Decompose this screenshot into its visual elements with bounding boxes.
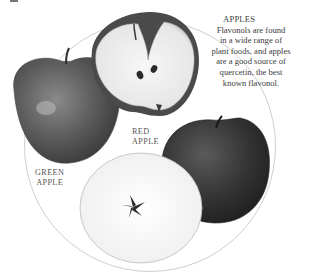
red-apple-label-line-2: APPLE <box>132 137 159 146</box>
caption-line: known flavonol. <box>223 78 279 88</box>
apples-caption: APPLES Flavonols are found in a wide ran… <box>195 14 307 88</box>
caption-line: are a good source of <box>216 56 286 66</box>
apple-cross-section <box>80 153 202 263</box>
green-apple-label: GREEN APPLE <box>35 168 64 188</box>
green-apple-label-line-2: APPLE <box>36 178 63 187</box>
caption-line: quercetin, the best <box>220 67 283 77</box>
caption-line: Flavonols are found <box>217 25 286 35</box>
caption-title: APPLES <box>195 14 307 25</box>
caption-line: plant foods, and apples <box>211 46 290 56</box>
caption-body: Flavonols are found in a wide range of p… <box>195 25 307 89</box>
red-apple-label: RED APPLE <box>132 127 159 147</box>
caption-line: in a wide range of <box>220 35 282 45</box>
green-apple-label-line-1: GREEN <box>35 168 64 177</box>
red-apple-label-line-1: RED <box>132 127 150 136</box>
